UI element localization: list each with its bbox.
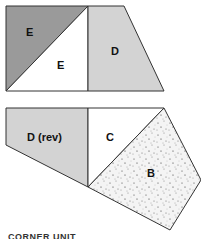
label-d: D [111,45,119,57]
diagram-caption: CORNER UNIT [8,232,76,239]
label-d-rev: D (rev) [27,131,62,143]
piece-d [88,6,164,91]
bottom-group: D (rev) C B [6,108,201,230]
label-b: B [147,167,155,179]
label-e-light: E [57,59,64,71]
label-c: C [106,131,114,143]
piece-d-rev [6,108,88,187]
quilt-diagram: E E D D (rev) C B [0,0,201,239]
label-e-dark: E [26,26,33,38]
top-group: E E D [6,6,164,91]
